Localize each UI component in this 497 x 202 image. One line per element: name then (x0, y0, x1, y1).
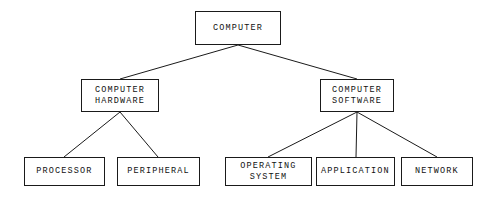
node-computer-software[interactable]: COMPUTERSOFTWARE (320, 79, 394, 112)
node-operating-system-label-line-1: OPERATING (240, 161, 296, 172)
node-processor[interactable]: PROCESSOR (24, 157, 105, 186)
connector-hardware-to-processor (64, 112, 120, 157)
node-network-label-line-1: NETWORK (415, 166, 459, 177)
connector-software-to-application (356, 112, 357, 157)
connector-hardware-to-peripheral (120, 112, 158, 157)
connector-software-to-operating-system (268, 112, 357, 157)
node-application[interactable]: APPLICATION (316, 157, 395, 186)
connector-software-to-network (357, 112, 437, 157)
node-computer-hardware-label-line-2: HARDWARE (95, 96, 145, 107)
node-computer[interactable]: COMPUTER (195, 11, 281, 45)
connector-computer-to-software (238, 45, 357, 79)
node-application-label-line-1: APPLICATION (321, 166, 390, 177)
connector-computer-to-hardware (120, 45, 238, 79)
node-operating-system-label-line-2: SYSTEM (250, 172, 288, 183)
node-computer-hardware-label-line-1: COMPUTER (95, 85, 145, 96)
node-computer-hardware[interactable]: COMPUTERHARDWARE (81, 79, 159, 112)
node-peripheral[interactable]: PERIPHERAL (117, 157, 200, 186)
node-processor-label-line-1: PROCESSOR (36, 166, 92, 177)
node-network[interactable]: NETWORK (401, 157, 473, 186)
node-computer-software-label-line-2: SOFTWARE (332, 96, 382, 107)
node-computer-software-label-line-1: COMPUTER (332, 85, 382, 96)
node-computer-label-line-1: COMPUTER (213, 23, 263, 34)
hierarchy-diagram: COMPUTERCOMPUTERHARDWARECOMPUTERSOFTWARE… (0, 0, 497, 202)
node-peripheral-label-line-1: PERIPHERAL (127, 166, 190, 177)
node-operating-system[interactable]: OPERATINGSYSTEM (225, 157, 312, 186)
